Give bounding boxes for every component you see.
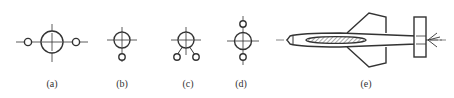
panel-d-drawing	[227, 16, 259, 65]
diagram-canvas	[0, 0, 454, 98]
panel-c-label: (c)	[182, 78, 193, 89]
panel-e-label: (e)	[360, 78, 371, 89]
panel-a-drawing	[16, 24, 88, 62]
panel-e-drawing	[276, 13, 446, 67]
panel-a-label: (a)	[46, 78, 57, 89]
panel-d-label: (d)	[235, 78, 247, 89]
panel-c-drawing	[171, 27, 201, 60]
panel-b-drawing	[107, 27, 137, 62]
panel-b-label: (b)	[116, 78, 128, 89]
